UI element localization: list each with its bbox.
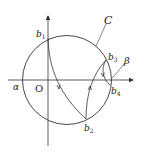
label-origin: O bbox=[35, 83, 43, 94]
label-b2: b2 bbox=[84, 123, 94, 134]
leader-c bbox=[96, 24, 106, 46]
circle-orbit-diagram: C β α O b1 b2 b3 b4 bbox=[0, 0, 144, 159]
arrow-b1-b2 bbox=[57, 85, 60, 90]
arc-b1-b2 bbox=[48, 38, 86, 119]
label-c: C bbox=[104, 14, 113, 27]
label-b3: b3 bbox=[108, 52, 118, 63]
arc-b3-b4 bbox=[103, 60, 110, 85]
label-alpha: α bbox=[13, 82, 19, 92]
label-b1: b1 bbox=[36, 29, 46, 40]
label-beta: β bbox=[123, 55, 130, 66]
label-b4: b4 bbox=[111, 86, 121, 97]
